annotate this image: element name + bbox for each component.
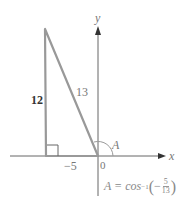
horizontal-side-label: −5 <box>64 160 77 172</box>
formula-lhs: A = cos <box>104 179 141 194</box>
y-axis-arrow-icon <box>95 26 101 35</box>
x-axis-label: x <box>169 150 174 162</box>
formula-exponent: −1 <box>141 183 148 191</box>
x-axis-arrow-icon <box>158 153 166 159</box>
formula-sign: − <box>154 179 161 194</box>
right-triangle <box>45 29 98 156</box>
angle-label: A <box>112 139 119 151</box>
right-angle-marker <box>47 145 58 156</box>
vertical-side-label: 12 <box>31 94 43 106</box>
fraction-denominator: 13 <box>162 187 170 195</box>
y-axis-label: y <box>95 12 100 24</box>
hypotenuse-label: 13 <box>76 86 88 98</box>
angle-formula: A = cos −1 ( − 5 13 ) <box>104 178 176 195</box>
formula-fraction: 5 13 <box>162 178 170 195</box>
origin-label: 0 <box>100 160 106 171</box>
close-paren: ) <box>171 179 176 195</box>
